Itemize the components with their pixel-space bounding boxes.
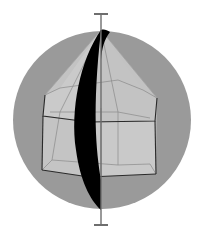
- symmetry-diagram: [0, 0, 205, 238]
- diagram-canvas: [0, 0, 205, 238]
